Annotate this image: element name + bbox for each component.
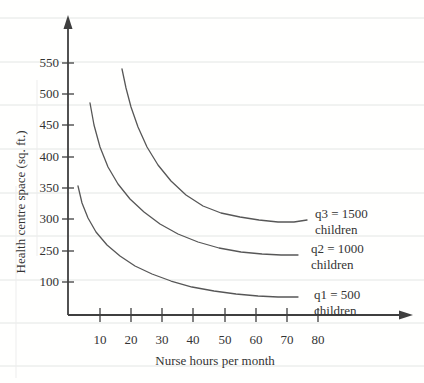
y-tick-label: 550: [19, 55, 59, 70]
x-tick-label: 20: [125, 332, 138, 347]
curve-label-q3: q3 = 1500children: [315, 206, 368, 237]
x-tick-label: 10: [94, 332, 107, 347]
curve-label-line2: children: [314, 303, 360, 319]
curve-label-q1: q1 = 500children: [314, 287, 360, 318]
x-tick-label: 50: [219, 332, 232, 347]
y-tick-label: 300: [19, 211, 59, 226]
curve-label-line1: q2 = 1000: [311, 241, 364, 257]
curve-label-q2: q2 = 1000children: [311, 241, 364, 272]
x-axis-title: Nurse hours per month: [155, 353, 275, 368]
y-tick-label: 100: [19, 274, 59, 289]
x-tick-label: 40: [187, 332, 200, 347]
curve-label-line1: q3 = 1500: [315, 206, 368, 222]
x-tick-label: 60: [250, 332, 263, 347]
y-tick-label: 500: [19, 86, 59, 101]
y-tick-label: 250: [19, 243, 59, 258]
plot-canvas: [0, 0, 424, 383]
x-axis-arrow-icon: [399, 311, 413, 320]
curve-label-line1: q1 = 500: [314, 287, 360, 303]
y-tick-label: 450: [19, 117, 59, 132]
x-tick-label: 80: [312, 332, 325, 347]
curve-q2: [90, 103, 298, 255]
curve-label-line2: children: [315, 222, 368, 238]
curve-q3: [122, 69, 307, 222]
y-tick-label: 400: [19, 149, 59, 164]
y-axis-arrow-icon: [64, 15, 73, 29]
curve-label-line2: children: [311, 257, 364, 273]
x-tick-label: 70: [281, 332, 294, 347]
x-tick-label: 30: [156, 332, 169, 347]
y-tick-label: 350: [19, 180, 59, 195]
isoquant-chart-figure: Health centre space (sq. ft.) Nurse hour…: [0, 0, 424, 383]
